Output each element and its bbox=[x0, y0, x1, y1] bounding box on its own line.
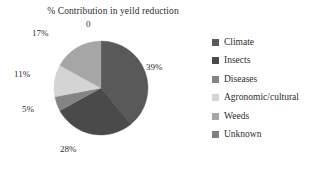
legend-item[interactable]: Weeds bbox=[212, 107, 329, 126]
pie-svg bbox=[0, 0, 220, 172]
slice-label-insects: 28% bbox=[60, 145, 77, 154]
pie-plot-area: 0 17% 11% 5% 28% 39% bbox=[0, 0, 220, 172]
legend-item-label: Diseases bbox=[224, 75, 257, 85]
slice-label-agronomic-cultural: 11% bbox=[14, 70, 30, 79]
legend-swatch-icon bbox=[212, 94, 219, 101]
legend-swatch-icon bbox=[212, 76, 219, 83]
pie-slice-group bbox=[54, 41, 148, 135]
legend-swatch-icon bbox=[212, 39, 219, 46]
legend-item-label: Agronomic/cultural bbox=[224, 93, 299, 103]
slice-label-unknown: 0 bbox=[86, 20, 91, 29]
legend-item[interactable]: Diseases bbox=[212, 70, 329, 89]
slice-label-climate: 39% bbox=[146, 63, 163, 72]
legend-swatch-icon bbox=[212, 113, 219, 120]
legend-swatch-icon bbox=[212, 131, 219, 138]
legend-swatch-icon bbox=[212, 57, 219, 64]
legend-item-label: Weeds bbox=[224, 112, 249, 122]
slice-label-diseases: 5% bbox=[22, 105, 34, 114]
legend-item-label: Climate bbox=[224, 38, 254, 48]
slice-label-weeds: 17% bbox=[32, 29, 49, 38]
legend-item[interactable]: Insects bbox=[212, 52, 329, 71]
legend-item[interactable]: Agronomic/cultural bbox=[212, 89, 329, 108]
chart-legend: ClimateInsectsDiseasesAgronomic/cultural… bbox=[212, 33, 329, 144]
pie-chart-figure: % Contribution in yeild reduction 0 17% … bbox=[0, 0, 329, 172]
legend-item-label: Insects bbox=[224, 56, 250, 66]
legend-item[interactable]: Climate bbox=[212, 33, 329, 52]
legend-item-label: Unknown bbox=[224, 130, 261, 140]
legend-item[interactable]: Unknown bbox=[212, 126, 329, 145]
